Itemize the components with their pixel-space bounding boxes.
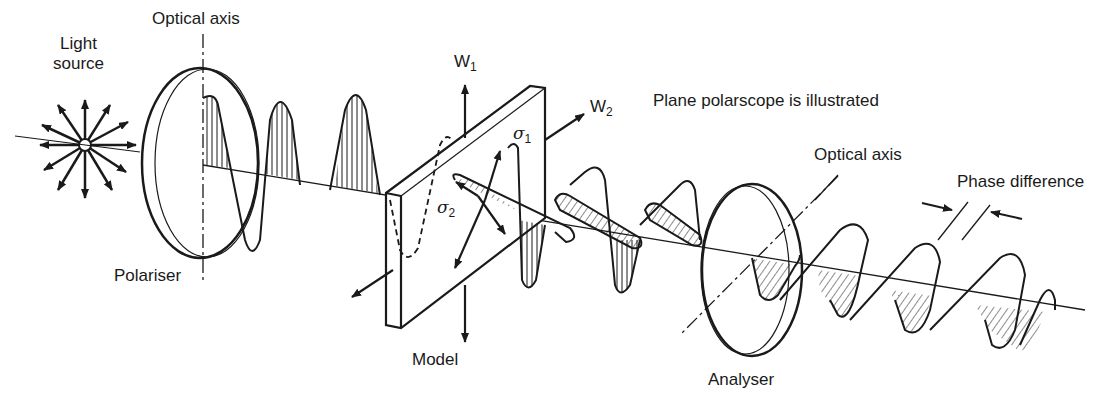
output-waves bbox=[752, 224, 1055, 350]
sigma1-letter: σ bbox=[513, 123, 525, 143]
w2-label: W2 bbox=[590, 97, 613, 120]
propagation-axis bbox=[203, 165, 1085, 310]
optical-axis-label-1: Optical axis bbox=[152, 9, 240, 29]
sigma2-subscript: 2 bbox=[449, 206, 456, 220]
phase-difference-markers bbox=[922, 202, 1022, 240]
phase-difference-label: Phase difference bbox=[957, 172, 1084, 192]
polariscope-diagram: Light source Optical axis Polariser W1 W… bbox=[0, 0, 1117, 403]
sigma1-subscript: 1 bbox=[525, 132, 532, 146]
w1-letter: W bbox=[454, 52, 470, 71]
light-source-icon bbox=[40, 100, 136, 198]
model-label: Model bbox=[412, 350, 458, 370]
sigma2-letter: σ bbox=[437, 197, 449, 217]
w2-letter: W bbox=[590, 97, 606, 116]
sigma2-label: σ2 bbox=[437, 198, 455, 221]
light-source-label: Light source bbox=[53, 34, 104, 73]
light-source-line2: source bbox=[53, 54, 104, 74]
sigma1-label: σ1 bbox=[513, 124, 531, 147]
w1-label: W1 bbox=[454, 52, 477, 75]
polarised-wave bbox=[203, 95, 380, 251]
w1-subscript: 1 bbox=[470, 60, 477, 74]
optical-axis-2-leader bbox=[815, 175, 838, 200]
light-source-line1: Light bbox=[53, 34, 104, 54]
optical-axis-label-2: Optical axis bbox=[814, 145, 902, 165]
diagram-title: Plane polarscope is illustrated bbox=[653, 91, 879, 111]
polariser-disc bbox=[142, 34, 259, 282]
w2-subscript: 2 bbox=[606, 105, 613, 119]
analyser-label: Analyser bbox=[708, 370, 774, 390]
polariser-label: Polariser bbox=[114, 266, 181, 286]
diagram-canvas bbox=[0, 0, 1117, 403]
